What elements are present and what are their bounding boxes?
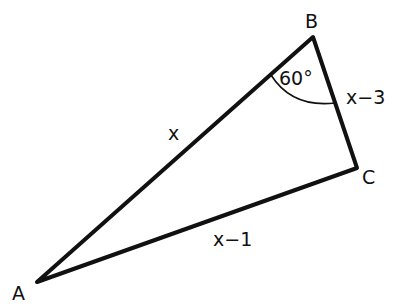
vertex-label-c: C	[362, 166, 375, 188]
triangle-diagram: A B C x x−1 x−3 60°	[0, 0, 404, 306]
side-label-ac: x−1	[213, 228, 252, 250]
angle-label-b: 60°	[279, 67, 313, 89]
vertex-label-a: A	[12, 282, 25, 304]
side-label-ab: x	[168, 122, 179, 144]
vertex-label-b: B	[305, 10, 318, 32]
side-label-bc: x−3	[346, 86, 385, 108]
